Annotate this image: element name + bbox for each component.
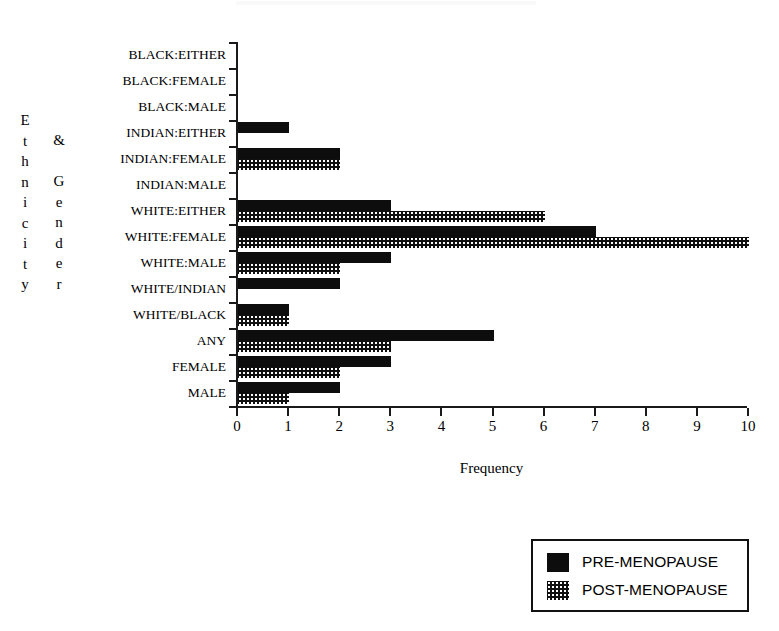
legend-swatch-pre-menopause-icon xyxy=(547,553,569,572)
legend-label-post-menopause: POST-MENOPAUSE xyxy=(582,581,728,599)
bar-group xyxy=(238,380,749,406)
bar-group xyxy=(238,146,749,172)
x-tick-mark xyxy=(287,408,289,416)
bar-group xyxy=(238,198,749,224)
x-tick-mark xyxy=(338,408,340,416)
bar-group xyxy=(238,94,749,120)
x-tick-mark xyxy=(389,408,391,416)
y-axis-label: BLACK:MALE xyxy=(70,100,226,114)
y-tick-mark xyxy=(229,250,238,252)
x-tick-label: 1 xyxy=(273,418,303,435)
y-axis-title-gender: & Gender xyxy=(48,130,70,294)
x-tick-label: 2 xyxy=(324,418,354,435)
bar-group xyxy=(238,42,749,68)
bar xyxy=(238,330,494,341)
x-tick-mark xyxy=(594,408,596,416)
x-tick-label: 10 xyxy=(733,418,763,435)
y-tick-mark xyxy=(229,380,238,382)
y-axis-label: ANY xyxy=(70,334,226,348)
y-tick-mark xyxy=(229,68,238,70)
bar-group xyxy=(238,68,749,94)
x-tick-label: 4 xyxy=(426,418,456,435)
y-tick-mark xyxy=(229,276,238,278)
bar xyxy=(238,278,340,289)
x-tick-mark xyxy=(236,408,238,416)
y-tick-mark xyxy=(229,120,238,122)
y-tick-mark xyxy=(229,94,238,96)
legend-item-post-menopause: POST-MENOPAUSE xyxy=(547,578,728,602)
bar xyxy=(238,237,749,248)
x-tick-label: 0 xyxy=(222,418,252,435)
x-tick-mark xyxy=(747,408,749,416)
bar xyxy=(238,393,289,404)
y-axis-label: WHITE:MALE xyxy=(70,256,226,270)
x-axis-title: Frequency xyxy=(236,460,747,477)
bar xyxy=(238,356,391,367)
y-axis-title-ethnicity: Ethnicity xyxy=(14,110,36,295)
legend-swatch-post-menopause-icon xyxy=(547,581,569,600)
bar xyxy=(238,159,340,170)
bar xyxy=(238,122,289,133)
y-axis-label: FEMALE xyxy=(70,360,226,374)
bar xyxy=(238,148,340,159)
x-tick-mark xyxy=(696,408,698,416)
bar xyxy=(238,226,596,237)
bar-group xyxy=(238,250,749,276)
y-axis-label: MALE xyxy=(70,386,226,400)
x-tick-label: 6 xyxy=(529,418,559,435)
bar-group xyxy=(238,354,749,380)
bar-group xyxy=(238,276,749,302)
bar-group xyxy=(238,120,749,146)
y-tick-mark xyxy=(229,42,238,44)
x-tick-mark xyxy=(543,408,545,416)
x-tick-mark xyxy=(440,408,442,416)
bar xyxy=(238,211,545,222)
y-tick-mark xyxy=(229,198,238,200)
bar xyxy=(238,252,391,263)
x-tick-label: 5 xyxy=(478,418,508,435)
y-axis-label: WHITE/INDIAN xyxy=(70,282,226,296)
y-axis-label: WHITE/BLACK xyxy=(70,308,226,322)
legend-item-pre-menopause: PRE-MENOPAUSE xyxy=(547,550,718,574)
y-axis-label: BLACK:FEMALE xyxy=(70,74,226,88)
y-axis-label: INDIAN:EITHER xyxy=(70,126,226,140)
bar xyxy=(238,367,340,378)
scan-artifact xyxy=(236,1,536,5)
y-axis-label: INDIAN:FEMALE xyxy=(70,152,226,166)
y-axis-label: WHITE:EITHER xyxy=(70,204,226,218)
bar xyxy=(238,263,340,274)
bar-group xyxy=(238,224,749,250)
y-tick-mark xyxy=(229,328,238,330)
plot-area: 012345678910 xyxy=(236,42,747,406)
legend-label-pre-menopause: PRE-MENOPAUSE xyxy=(582,553,718,571)
chart-legend: PRE-MENOPAUSE POST-MENOPAUSE xyxy=(531,539,749,612)
y-tick-mark xyxy=(229,172,238,174)
x-tick-label: 9 xyxy=(682,418,712,435)
bar xyxy=(238,382,340,393)
bar xyxy=(238,315,289,326)
bar-group xyxy=(238,172,749,198)
x-tick-mark xyxy=(492,408,494,416)
x-tick-mark xyxy=(645,408,647,416)
bar-group xyxy=(238,302,749,328)
y-tick-mark xyxy=(229,224,238,226)
x-tick-label: 3 xyxy=(375,418,405,435)
y-axis-label: WHITE:FEMALE xyxy=(70,230,226,244)
x-tick-label: 8 xyxy=(631,418,661,435)
bar xyxy=(238,200,391,211)
bar-chart-figure: Ethnicity & Gender BLACK:EITHERBLACK:FEM… xyxy=(0,0,779,631)
y-axis-label: INDIAN:MALE xyxy=(70,178,226,192)
bar-group xyxy=(238,328,749,354)
y-tick-mark xyxy=(229,302,238,304)
bar xyxy=(238,304,289,315)
x-tick-label: 7 xyxy=(580,418,610,435)
y-axis-label: BLACK:EITHER xyxy=(70,48,226,62)
y-tick-mark xyxy=(229,146,238,148)
y-tick-mark xyxy=(229,354,238,356)
bar xyxy=(238,341,391,352)
y-axis-category-labels: BLACK:EITHERBLACK:FEMALEBLACK:MALEINDIAN… xyxy=(74,42,230,406)
